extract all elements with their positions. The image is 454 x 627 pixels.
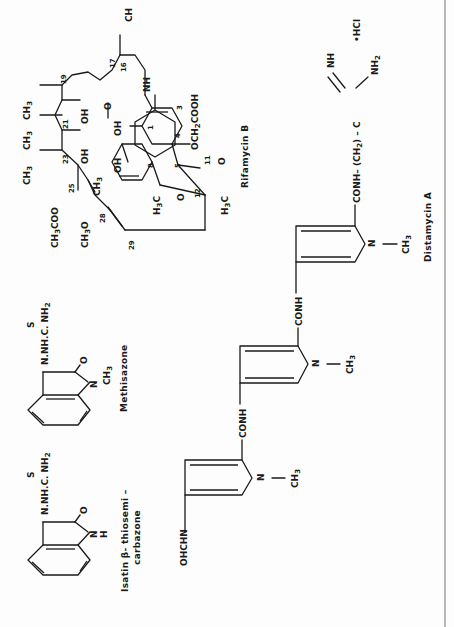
rifamycin-oh-23: OH [80, 149, 90, 164]
distamycin-n-3: N [367, 239, 377, 247]
position-23: 23 [62, 154, 70, 164]
distamycin-ch3-3: CH3 [401, 235, 413, 254]
position-12: 12 [194, 188, 202, 198]
methisazone-nitrogen: N [89, 380, 99, 388]
methisazone-sulfur: S [26, 322, 36, 328]
methisazone-oxygen: O [79, 356, 89, 364]
rifamycin-ch3coo: CH3COO [50, 207, 62, 248]
distamycin-a-name: Distamycin A [423, 192, 433, 262]
isatin-name-line1: Isatin β- thiosemi – [120, 489, 130, 592]
distamycin-n-2: N [311, 359, 321, 367]
rifamycin-oh-1: OH [113, 121, 123, 136]
isatin-nitrogen: N [89, 530, 99, 538]
rifamycin-ch3-b: CH3 [22, 131, 34, 150]
rifamycin-ch3-d: CH3 [92, 177, 104, 196]
rifamycin-amide-o: O [103, 102, 113, 110]
isatin-side-chain: N.NH.C. NH2 [40, 452, 52, 515]
rifamycin-oh-21: OH [80, 109, 90, 124]
methisazone-methyl: CH3 [102, 366, 114, 385]
rifamycin-b-labels: CH NH O OCH2COOH OH OH OH OH CH3 CH3 CH3… [22, 8, 232, 250]
isatin-oxygen: O [79, 506, 89, 514]
chemical-structures-figure: CH NH O OCH2COOH OH OH OH OH CH3 CH3 CH3… [0, 0, 454, 627]
rifamycin-b-name: Rifamycin B [240, 125, 250, 188]
position-3: 3 [176, 105, 184, 110]
distamycin-conh-2: CONH [294, 297, 304, 326]
position-5: 5 [174, 163, 182, 168]
distamycin-formyl: OHCHN [179, 529, 189, 566]
distamycin-ch3-2: CH3 [345, 355, 357, 374]
position-8: 8 [147, 163, 155, 168]
rifamycin-oh-8: OH [113, 158, 123, 173]
distamycin-ch3-1: CH3 [290, 469, 302, 488]
rifamycin-ring-o: O [176, 193, 186, 201]
distamycin-a-structure [185, 73, 397, 530]
rifamycin-ch3o: CH3O [80, 221, 92, 248]
document-page: CH NH O OCH2COOH OH OH OH OH CH3 CH3 CH3… [0, 0, 454, 627]
distamycin-hcl: •HCl [352, 19, 362, 42]
position-17: 17 [109, 58, 117, 68]
isatin-name-line2: carbazone [132, 510, 142, 565]
rifamycin-ch3-a: CH3 [22, 101, 34, 120]
methisazone-structure [28, 365, 90, 425]
distamycin-conh-1: CONH [238, 409, 248, 438]
rifamycin-ch3-16: CH [124, 8, 134, 22]
rifamycin-nh: NH [142, 77, 152, 92]
rifamycin-ketone-o: O [217, 157, 227, 165]
position-19: 19 [60, 74, 68, 84]
isatin-hydrogen: H [99, 530, 109, 538]
isatin-structure [28, 515, 90, 575]
distamycin-n-1: N [256, 473, 266, 481]
position-4: 4 [174, 133, 182, 138]
distamycin-amine-nh2: NH2 [370, 55, 382, 75]
position-28: 28 [99, 213, 107, 223]
position-1: 1 [147, 125, 155, 130]
position-11: 11 [204, 155, 212, 165]
methisazone-side-chain: N.NH.C. NH2 [40, 302, 52, 365]
position-29: 29 [128, 240, 136, 250]
rifamycin-h3c-a: H3C [152, 196, 164, 215]
distamycin-conh-chain: CONH– (CH2) – C [352, 121, 364, 203]
rifamycin-h3c-b: H3C [220, 196, 232, 215]
position-25: 25 [68, 183, 76, 193]
rifamycin-ch3-c: CH3 [22, 166, 34, 185]
position-21: 21 [62, 119, 70, 129]
position-16: 16 [120, 62, 128, 72]
isatin-sulfur: S [26, 472, 36, 478]
rifamycin-och2cooh: OCH2COOH [190, 94, 202, 150]
distamycin-imine-nh: NH [326, 53, 336, 68]
methisazone-name: Methisazone [119, 344, 129, 412]
